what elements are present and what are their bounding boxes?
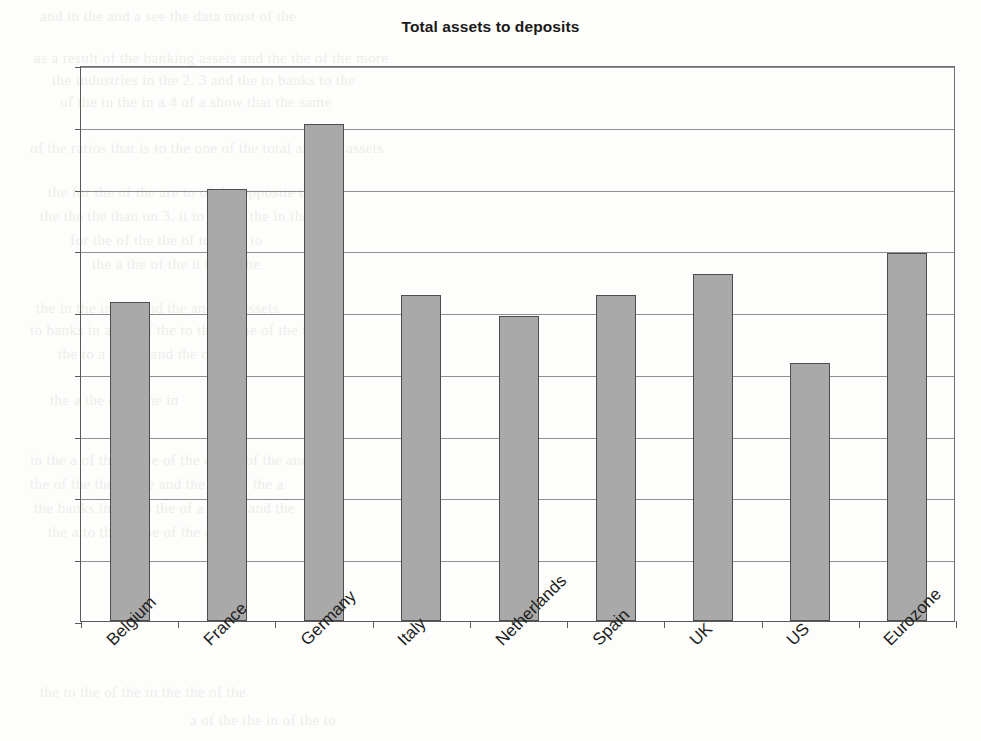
x-axis-tick-mark xyxy=(567,621,568,628)
x-axis-tick-mark xyxy=(470,621,471,628)
gridline xyxy=(81,67,954,68)
bleedthrough-text: as a result of the banking assets and th… xyxy=(34,50,388,67)
bar-netherlands xyxy=(499,316,539,621)
y-axis-tick-mark xyxy=(75,191,81,192)
bar-italy xyxy=(401,295,441,621)
x-axis-tick-mark xyxy=(178,621,179,628)
x-axis-label-uk: UK xyxy=(686,619,717,650)
x-axis-tick-mark xyxy=(81,621,82,628)
x-axis-tick-mark xyxy=(664,621,665,628)
chart-page: and in the and a see the data most of th… xyxy=(0,0,981,741)
gridline xyxy=(81,129,954,130)
chart-title: Total assets to deposits xyxy=(0,18,981,36)
bleedthrough-text: a of the the in of the to xyxy=(190,712,336,729)
y-axis-tick-mark xyxy=(75,438,81,439)
bar-germany xyxy=(304,124,344,621)
x-axis-tick-mark xyxy=(275,621,276,628)
x-axis-tick-mark xyxy=(762,621,763,628)
y-axis-tick-mark xyxy=(75,376,81,377)
y-axis-tick-mark xyxy=(75,67,81,68)
bar-eurozone xyxy=(887,253,927,621)
y-axis-tick-mark xyxy=(75,129,81,130)
y-axis-tick-mark xyxy=(75,314,81,315)
bar-france xyxy=(207,189,247,621)
x-axis-tick-mark xyxy=(373,621,374,628)
bar-belgium xyxy=(110,302,150,621)
x-axis-tick-mark xyxy=(859,621,860,628)
bar-us xyxy=(790,363,830,621)
bar-spain xyxy=(596,295,636,621)
plot-area xyxy=(80,66,955,622)
bar-uk xyxy=(693,274,733,621)
y-axis-tick-mark xyxy=(75,561,81,562)
y-axis-tick-mark xyxy=(75,499,81,500)
x-axis-tick-mark xyxy=(956,621,957,628)
bleedthrough-text: the to the of the in the the of the xyxy=(40,684,246,701)
x-axis-label-us: US xyxy=(783,619,814,650)
y-axis-tick-mark xyxy=(75,252,81,253)
